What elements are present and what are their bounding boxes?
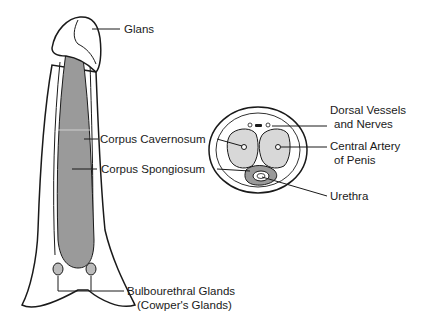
bulbourethral-gland-left: [53, 263, 63, 275]
label-urethra: Urethra: [330, 190, 368, 203]
label-bulbourethral-glands: Bulbourethral Glands: [127, 285, 235, 298]
bulbourethral-gland-right: [86, 263, 96, 275]
label-corpus-cavernosum: Corpus Cavernosum: [100, 133, 205, 146]
label-corpus-spongiosum: Corpus Spongiosum: [101, 163, 205, 176]
label-cowpers-glands: (Cowper's Glands): [137, 299, 232, 312]
label-and-nerves: and Nerves: [334, 118, 393, 131]
label-dorsal-vessels: Dorsal Vessels: [330, 104, 406, 117]
label-of-penis: of Penis: [334, 154, 376, 167]
label-glans: Glans: [124, 23, 154, 36]
corpus-cavernosum-right: [259, 129, 290, 168]
label-central-artery: Central Artery: [330, 140, 400, 153]
